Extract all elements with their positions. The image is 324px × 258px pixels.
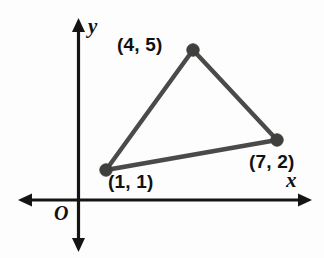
- vertex-label-a: (4, 5): [117, 35, 163, 54]
- y-axis-label: y: [88, 16, 97, 37]
- triangle-edge-a-b: [193, 50, 277, 140]
- origin-label: O: [54, 203, 68, 223]
- x-axis-left-arrow-icon: [18, 194, 32, 207]
- triangle-edge-c-a: [106, 50, 193, 170]
- coordinate-plane-figure: (4, 5) (7, 2) (1, 1) x y O: [0, 0, 324, 258]
- y-axis-up-arrow-icon: [72, 18, 85, 32]
- x-axis-label: x: [286, 170, 297, 191]
- vertex-point-b: [271, 134, 283, 146]
- y-axis-down-arrow-icon: [72, 238, 85, 252]
- x-axis-right-arrow-icon: [298, 194, 312, 207]
- vertex-point-a: [187, 44, 199, 56]
- vertex-label-c: (1, 1): [108, 172, 154, 191]
- y-axis-group: [72, 18, 85, 252]
